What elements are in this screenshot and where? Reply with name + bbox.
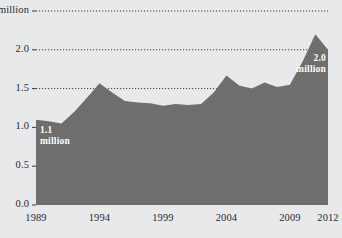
annotation-start-value: 1.1 million [40, 125, 70, 147]
area-series-path [36, 34, 328, 205]
x-axis-tick-label: 1989 [11, 212, 61, 223]
y-axis-tick-label: 0.5 [16, 159, 29, 170]
annotation-end-line2: million [296, 64, 326, 75]
annotation-end-value: 2.0 million [296, 53, 326, 75]
x-axis-tick-label: 2004 [201, 212, 251, 223]
y-axis-tick-label: 1.5 [16, 82, 29, 93]
x-axis-tick-label: 2012 [303, 212, 342, 223]
annotation-start-line2: million [40, 136, 70, 147]
y-axis-tick-label: 0.0 [16, 198, 29, 209]
area-chart: 2.5 million2.01.51.00.50.0 1989199419992… [0, 0, 342, 238]
y-axis-ticks-group [32, 11, 36, 205]
chart-canvas [0, 0, 342, 238]
annotation-end-line1: 2.0 [296, 53, 326, 64]
annotation-start-line1: 1.1 [40, 125, 70, 136]
x-axis-tick-label: 1994 [74, 212, 124, 223]
x-axis-tick-label: 1999 [138, 212, 188, 223]
y-axis-tick-label: 1.0 [16, 120, 29, 131]
y-axis-tick-label: 2.5 million [0, 4, 29, 15]
y-axis-tick-label: 2.0 [16, 43, 29, 54]
